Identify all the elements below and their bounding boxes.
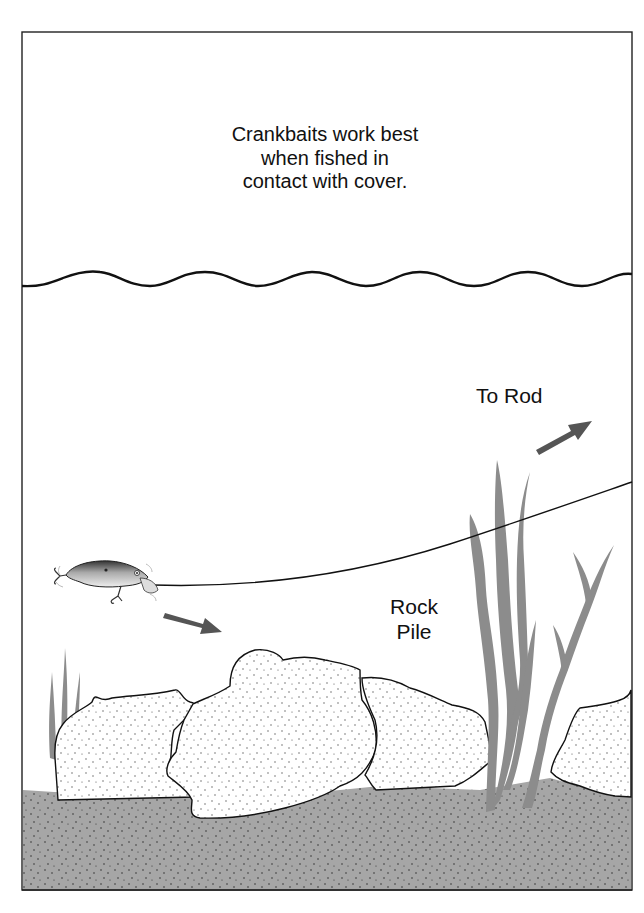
rock-pile-label-line-2: Pile <box>384 620 444 645</box>
rock-pile-label: Rock Pile <box>384 595 444 645</box>
rock-pile-label-line-1: Rock <box>384 595 444 620</box>
caption-line-1: Crankbaits work best <box>170 123 480 147</box>
to-rod-label: To Rod <box>476 384 543 409</box>
caption-text: Crankbaits work best when fished in cont… <box>170 123 480 194</box>
caption-line-2: when fished in <box>170 147 480 171</box>
caption-line-3: contact with cover. <box>170 170 480 194</box>
